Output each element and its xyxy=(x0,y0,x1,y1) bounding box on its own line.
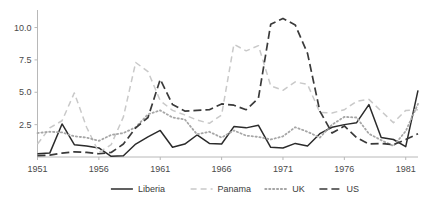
x-axis-tick-label: 1961 xyxy=(150,164,170,174)
y-axis: 2.55.07.510.0 xyxy=(14,10,38,157)
x-axis: 1951195619611966197119761981 xyxy=(27,157,418,174)
legend-item-us[interactable]: US xyxy=(319,184,359,194)
legend-item-liberia[interactable]: Liberia xyxy=(111,184,165,194)
legend-item-us-label: US xyxy=(346,184,359,194)
x-axis-tick-label: 1981 xyxy=(396,164,416,174)
legend-item-liberia-label: Liberia xyxy=(138,184,165,194)
line-chart: 2.55.07.510.0 19511956196119661971197619… xyxy=(0,0,425,205)
x-axis-tick-label: 1976 xyxy=(334,164,354,174)
chart-canvas: 2.55.07.510.0 19511956196119661971197619… xyxy=(0,0,425,205)
x-axis-tick-label: 1971 xyxy=(273,164,293,174)
chart-legend: LiberiaPanamaUKUS xyxy=(111,184,359,194)
x-axis-tick-label: 1951 xyxy=(27,164,47,174)
x-axis-tick-label: 1966 xyxy=(212,164,232,174)
series-lines xyxy=(38,18,419,156)
legend-item-uk-label: UK xyxy=(292,184,305,194)
legend-item-panama-label: Panama xyxy=(218,184,252,194)
y-axis-tick-label: 10.0 xyxy=(14,23,32,33)
legend-item-panama[interactable]: Panama xyxy=(191,184,252,194)
legend-item-uk[interactable]: UK xyxy=(265,184,305,194)
y-axis-tick-label: 5.0 xyxy=(19,87,32,97)
x-axis-tick-label: 1956 xyxy=(89,164,109,174)
y-axis-tick-label: 2.5 xyxy=(19,120,32,130)
y-axis-tick-label: 7.5 xyxy=(19,55,32,65)
